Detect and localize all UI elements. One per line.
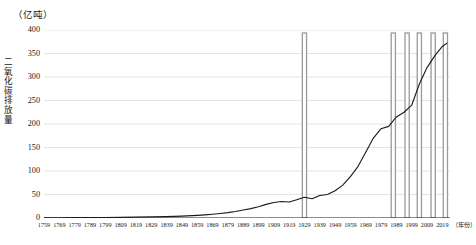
x-tick-label: 2009: [421, 221, 433, 228]
gridlines: [44, 30, 450, 195]
y-tick-label: 400: [28, 26, 40, 34]
x-tick-label: 1759: [38, 221, 50, 228]
y-tick-label: 50: [32, 191, 40, 199]
y-tick-label: 150: [28, 144, 40, 152]
x-tick-label: 1799: [99, 221, 111, 228]
x-tick-label: 1989: [390, 221, 402, 228]
x-tick-label: 1969: [360, 221, 372, 228]
x-tick-label: 1889: [237, 221, 249, 228]
x-tick-label: 1899: [252, 221, 264, 228]
highlight-band: [391, 33, 395, 218]
x-tick-label: 1909: [268, 221, 280, 228]
y-tick-label: 300: [28, 73, 40, 81]
x-tick-label: 1779: [68, 221, 80, 228]
x-tick-label: 1939: [314, 221, 326, 228]
highlight-band: [443, 33, 447, 218]
x-tick-label: 1839: [160, 221, 172, 228]
highlight-band: [417, 33, 421, 218]
x-tick-label: 1999: [406, 221, 418, 228]
x-tick-label: 1849: [176, 221, 188, 228]
x-axis-title: （年份）: [452, 221, 476, 228]
series-line-co2: [44, 43, 447, 218]
x-tick-label: 1869: [206, 221, 218, 228]
y-tick-label: 250: [28, 97, 40, 105]
x-tick-label: 1859: [191, 221, 203, 228]
plot-svg: [44, 30, 450, 218]
x-tick-label: 1879: [222, 221, 234, 228]
highlight-bands: [302, 33, 447, 218]
highlight-band: [405, 33, 409, 218]
x-tick-label: 1789: [84, 221, 96, 228]
plot-area: [44, 30, 450, 218]
y-tick-label: 200: [28, 120, 40, 128]
x-tick-label: 1809: [114, 221, 126, 228]
x-tick-label: 1829: [145, 221, 157, 228]
x-tick-label: 1769: [53, 221, 65, 228]
x-tick-label: 1819: [130, 221, 142, 228]
y-tick-label: 350: [28, 50, 40, 58]
x-tick-label: 1949: [329, 221, 341, 228]
y-tick-label: 100: [28, 167, 40, 175]
x-tick-label: 2019: [436, 221, 448, 228]
x-axis-tick-labels: 1759176917791789179918091819182918391849…: [0, 221, 464, 235]
x-tick-label: 1919: [283, 221, 295, 228]
highlight-band: [302, 33, 306, 218]
x-tick-label: 1929: [298, 221, 310, 228]
x-tick-label: 1959: [344, 221, 356, 228]
x-tick-label: 1979: [375, 221, 387, 228]
y-axis-tick-labels: 050100150200250300350400: [14, 0, 40, 245]
